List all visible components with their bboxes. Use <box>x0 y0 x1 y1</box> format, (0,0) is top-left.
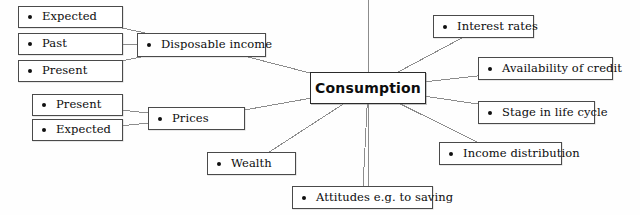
connector-expected-prices-to-prices <box>123 123 148 125</box>
connector-disposable-income-to-consumption <box>248 57 310 73</box>
node-label: Present <box>56 99 110 111</box>
bullet-icon <box>217 162 221 166</box>
connector-income-distribution-to-consumption <box>400 104 477 142</box>
bullet-icon <box>28 69 32 73</box>
node-label: Wealth <box>231 158 281 170</box>
node-stage-life-cycle[interactable]: Stage in life cycle <box>478 101 595 124</box>
node-label: Past <box>42 38 76 50</box>
node-consumption[interactable]: Consumption <box>310 72 426 104</box>
bullet-icon <box>302 196 306 200</box>
node-disposable-income[interactable]: Disposable income <box>137 33 266 57</box>
node-label: Prices <box>172 113 218 125</box>
node-label: Income distribution <box>463 148 589 160</box>
node-prices[interactable]: Prices <box>148 107 245 130</box>
node-expected-income[interactable]: Expected <box>18 6 123 28</box>
bullet-icon <box>147 43 151 47</box>
bullet-icon <box>488 111 492 115</box>
node-availability-credit[interactable]: Availability of credit <box>478 57 613 80</box>
node-attitudes[interactable]: Attitudes e.g. to saving <box>292 186 433 209</box>
bullet-icon <box>42 103 46 107</box>
connector-interest-rates-to-consumption <box>398 38 462 72</box>
node-label: Expected <box>56 124 120 136</box>
bullet-icon <box>158 117 162 121</box>
connector-stage-life-cycle-to-consumption <box>426 96 478 104</box>
connector-prices-to-consumption <box>245 98 310 110</box>
node-interest-rates[interactable]: Interest rates <box>433 15 534 38</box>
bullet-icon <box>42 128 46 132</box>
node-label: Consumption <box>305 81 431 95</box>
node-wealth[interactable]: Wealth <box>207 152 296 175</box>
connector-attitudes-to-consumption <box>363 104 367 186</box>
bullet-icon <box>28 15 32 19</box>
node-label: Expected <box>42 11 106 23</box>
node-past-income[interactable]: Past <box>18 33 123 55</box>
node-label: Interest rates <box>457 21 547 33</box>
bullet-icon <box>28 42 32 46</box>
node-present-income[interactable]: Present <box>18 60 123 82</box>
node-label: Availability of credit <box>502 63 631 75</box>
node-label: Attitudes e.g. to saving <box>316 192 462 204</box>
node-income-distribution[interactable]: Income distribution <box>439 142 562 165</box>
connector-availability-credit-to-consumption <box>426 76 478 82</box>
concept-map-canvas: ConsumptionExpectedPastPresentDisposable… <box>0 0 640 215</box>
node-label: Stage in life cycle <box>502 107 617 119</box>
bullet-icon <box>449 152 453 156</box>
node-label: Present <box>42 65 96 77</box>
connector-present-income-to-disposable-income <box>123 57 141 61</box>
bullet-icon <box>488 67 492 71</box>
connector-present-prices-to-prices <box>123 110 148 113</box>
connector-wealth-to-consumption <box>269 104 343 152</box>
node-present-prices[interactable]: Present <box>32 94 123 116</box>
node-expected-prices[interactable]: Expected <box>32 119 123 141</box>
node-label: Disposable income <box>161 39 281 51</box>
bullet-icon <box>443 25 447 29</box>
